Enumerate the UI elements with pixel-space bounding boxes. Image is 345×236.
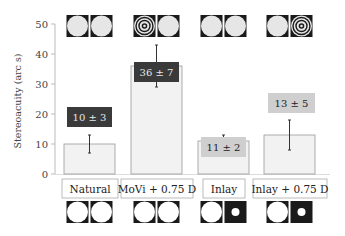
disc-icon <box>267 16 288 37</box>
disc-icon <box>67 16 88 37</box>
category-label: Natural <box>69 183 111 195</box>
y-tick-label: 10 <box>35 139 48 150</box>
pinhole-icon <box>298 208 306 216</box>
value-badge-text: 11 ± 2 <box>207 142 241 153</box>
ring-core <box>143 25 146 28</box>
y-tick-label: 30 <box>35 79 48 90</box>
y-axis-title: Stereoacuity (arc s) <box>12 53 23 148</box>
disc-icon <box>158 16 179 37</box>
y-tick-label: 20 <box>35 109 48 120</box>
value-badge-text: 10 ± 3 <box>73 112 107 123</box>
disc-icon <box>67 202 88 223</box>
disc-icon <box>134 202 155 223</box>
stereoacuity-bar-chart: 01020304050Stereoacuity (arc s) 10 ± 3Na… <box>0 0 345 236</box>
category-label: MoVi + 0.75 D <box>118 183 196 195</box>
disc-icon <box>201 16 222 37</box>
disc-icon <box>225 16 246 37</box>
value-badge-text: 36 ± 7 <box>140 67 174 78</box>
ring-core <box>300 25 303 28</box>
category-label: Inlay <box>211 183 238 195</box>
y-tick-label: 0 <box>42 169 48 180</box>
disc-icon <box>267 202 288 223</box>
labels: 10 ± 3Natural36 ± 7MoVi + 0.75 D11 ± 2In… <box>62 62 329 198</box>
value-badge-text: 13 ± 5 <box>275 98 309 109</box>
y-tick-label: 40 <box>35 49 48 60</box>
category-label: Inlay + 0.75 D <box>251 183 328 195</box>
disc-icon <box>91 16 112 37</box>
disc-icon <box>158 202 179 223</box>
pinhole-icon <box>232 208 240 216</box>
disc-icon <box>201 202 222 223</box>
disc-icon <box>91 202 112 223</box>
y-tick-label: 50 <box>35 19 48 30</box>
